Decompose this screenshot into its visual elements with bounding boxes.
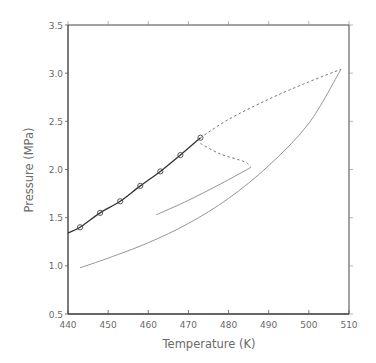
solid-line	[80, 69, 341, 267]
y-axis-label: Pressure (MPa)	[22, 127, 36, 212]
y-tick-label: 1.5	[49, 213, 63, 223]
chart: 4404504604704804905005100.51.01.52.02.53…	[0, 0, 376, 363]
x-tick-label: 510	[340, 320, 357, 330]
series-4	[80, 69, 341, 267]
x-tick-label: 490	[260, 320, 277, 330]
x-tick-label: 460	[140, 320, 157, 330]
x-tick-label: 480	[220, 320, 237, 330]
series-3	[156, 168, 250, 215]
y-tick-label: 0.5	[49, 310, 63, 320]
y-tick-label: 2.0	[49, 165, 64, 175]
x-axis-label: Temperature (K)	[161, 337, 255, 351]
y-tick-label: 1.0	[49, 261, 64, 271]
dashed-line	[200, 143, 250, 167]
axis-ticks: 4404504604704804905005100.51.01.52.02.53…	[49, 21, 358, 331]
y-tick-label: 3.5	[49, 21, 63, 31]
plot-lines	[68, 69, 341, 267]
y-tick-label: 3.0	[49, 69, 64, 79]
x-tick-label: 470	[180, 320, 197, 330]
series-1	[200, 69, 341, 137]
x-tick-label: 440	[59, 320, 76, 330]
y-tick-label: 2.5	[49, 117, 63, 127]
axes-frame	[68, 25, 349, 314]
dashed-line	[200, 69, 341, 137]
series-2	[200, 143, 250, 167]
solid-line	[156, 168, 250, 215]
x-tick-label: 500	[300, 320, 317, 330]
series-0	[68, 135, 203, 233]
x-tick-label: 450	[100, 320, 117, 330]
